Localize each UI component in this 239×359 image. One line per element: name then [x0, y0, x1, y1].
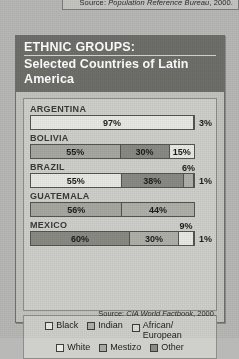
segment-value-label-outside: 1% — [199, 234, 212, 244]
chart-row: MEXICO60%30%9%9%1% — [30, 220, 210, 246]
stacked-bar: 55%30%15% — [30, 144, 195, 159]
segment-value-label: 30% — [136, 147, 154, 157]
bar-segment: 55% — [31, 145, 121, 158]
legend-swatch-icon — [150, 344, 158, 352]
segment-value-label-outside: 3% — [199, 118, 212, 128]
bar-segment: 97% — [31, 116, 194, 129]
stacked-bar: 56%44% — [30, 202, 195, 217]
legend-swatch-icon — [132, 324, 140, 332]
chart-legend: BlackIndianAfrican/ European WhiteMestiz… — [23, 315, 217, 359]
upper-source-note: Source: Population Reference Bureau, 200… — [80, 0, 233, 7]
chart-row: BOLIVIA55%30%15% — [30, 133, 210, 159]
bar-segment: 38% — [122, 174, 185, 187]
legend-label: White — [67, 343, 90, 353]
stacked-bar: 55%38%6%6%1% — [30, 173, 195, 188]
stacked-bar: 97%3% — [30, 115, 195, 130]
legend-swatch-icon — [99, 344, 107, 352]
legend-item: African/ European — [132, 321, 195, 340]
legend-label: Other — [161, 343, 184, 353]
chart-plot-area: ARGENTINA97%3%BOLIVIA55%30%15%BRAZIL55%3… — [23, 98, 217, 311]
segment-value-label: 38% — [143, 176, 161, 186]
segment-value-label: 60% — [71, 234, 89, 244]
chart-row: GUATEMALA56%44% — [30, 191, 210, 217]
upper-figure-box: Source: Population Reference Bureau, 200… — [62, 0, 239, 10]
panel-title-line2: Selected Countries of Latin America — [24, 56, 216, 87]
segment-value-label: 97% — [103, 118, 121, 128]
bar-segment: 9% — [179, 232, 194, 245]
legend-swatch-icon — [87, 322, 95, 330]
legend-label: Black — [56, 321, 78, 331]
legend-label: Indian — [98, 321, 123, 331]
bar-segment: 15% — [170, 145, 194, 158]
legend-swatch-icon — [45, 322, 53, 330]
bar-segment: 55% — [31, 174, 122, 187]
legend-item: Other — [150, 343, 184, 353]
legend-swatch-icon — [56, 344, 64, 352]
bar-segment: 30% — [121, 145, 170, 158]
panel-header: ETHNIC GROUPS: Selected Countries of Lat… — [16, 36, 224, 92]
legend-item: Black — [45, 321, 78, 331]
segment-value-label: 56% — [67, 205, 85, 215]
legend-item: Mestizo — [99, 343, 141, 353]
legend-label: African/ European — [143, 321, 195, 340]
segment-value-label: 55% — [66, 147, 84, 157]
bar-segment: 6% — [184, 174, 194, 187]
legend-item: White — [56, 343, 90, 353]
segment-value-label-outside: 1% — [199, 176, 212, 186]
bar-segment: 30% — [130, 232, 179, 245]
country-label: ARGENTINA — [30, 104, 210, 115]
chart-row: ARGENTINA97%3% — [30, 104, 210, 130]
segment-value-label: 30% — [145, 234, 163, 244]
bar-segment: 44% — [122, 203, 194, 216]
legend-label: Mestizo — [110, 343, 141, 353]
segment-value-label-outside: 9% — [180, 221, 193, 231]
stacked-bar: 60%30%9%9%1% — [30, 231, 195, 246]
chart-row: BRAZIL55%38%6%6%1% — [30, 162, 210, 188]
legend-item: Indian — [87, 321, 123, 331]
ethnic-groups-panel: ETHNIC GROUPS: Selected Countries of Lat… — [15, 35, 225, 323]
segment-value-label-outside: 6% — [182, 163, 195, 173]
panel-title-line1: ETHNIC GROUPS: — [24, 40, 216, 56]
legend-row-1: BlackIndianAfrican/ European — [28, 321, 212, 340]
segment-value-label: 15% — [173, 147, 191, 157]
country-label: BOLIVIA — [30, 133, 210, 144]
segment-value-label: 44% — [149, 205, 167, 215]
panel-source-note: Source: CIA World Factbook, 2000. — [98, 309, 216, 318]
bar-segment: 60% — [31, 232, 130, 245]
bar-segment: 56% — [31, 203, 122, 216]
country-label: GUATEMALA — [30, 191, 210, 202]
legend-row-2: WhiteMestizoOther — [28, 343, 212, 353]
segment-value-label: 55% — [67, 176, 85, 186]
